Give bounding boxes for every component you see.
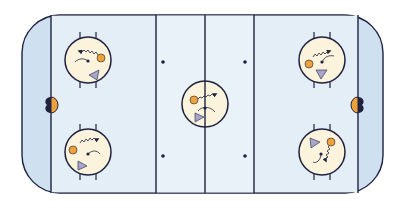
- puck-icon: [190, 96, 198, 104]
- hockey-rink-diagram: [0, 0, 406, 212]
- center-dot: [319, 152, 322, 155]
- right-goal: [351, 97, 364, 113]
- puck-icon: [69, 146, 77, 154]
- center-dot: [86, 152, 89, 155]
- faceoff-dot: [243, 60, 247, 64]
- center-dot: [320, 60, 323, 63]
- puck-icon: [97, 54, 105, 62]
- faceoff-dot: [161, 154, 165, 158]
- faceoff-circle: [299, 129, 345, 175]
- puck-icon: [327, 138, 335, 146]
- center-dot: [203, 106, 206, 109]
- center-dot: [86, 59, 89, 62]
- faceoff-dot: [161, 60, 165, 64]
- faceoff-dot: [243, 154, 247, 158]
- left-goal: [45, 97, 58, 113]
- puck-icon: [305, 60, 313, 68]
- center-faceoff-circle: [182, 81, 228, 127]
